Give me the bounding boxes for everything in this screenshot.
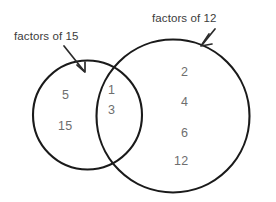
left-only-member: 5: [62, 88, 69, 102]
right-set-circle: [97, 40, 250, 193]
left-set-circle: [33, 61, 142, 170]
right-only-member: 4: [181, 95, 188, 109]
venn-diagram-canvas: factors of 15 factors of 12 5 15 1 3 2 4…: [0, 0, 276, 202]
right-set-label: factors of 12: [152, 12, 217, 24]
right-only-member: 6: [181, 126, 188, 140]
intersection-member: 3: [108, 103, 115, 117]
left-set-label: factors of 15: [14, 30, 79, 42]
right-only-member: 12: [174, 154, 188, 168]
left-only-member: 15: [58, 119, 72, 133]
venn-diagram-figure: factors of 15 factors of 12 5 15 1 3 2 4…: [0, 0, 276, 202]
right-only-member: 2: [181, 65, 188, 79]
intersection-member: 1: [108, 83, 115, 97]
left-set-arrow-shaft: [64, 46, 84, 71]
